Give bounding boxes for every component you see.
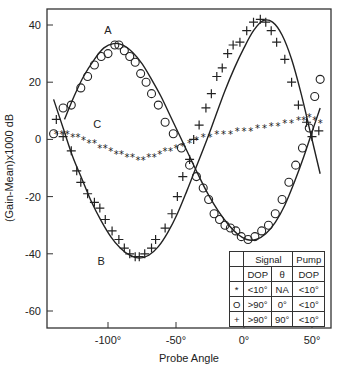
legend-row: O >90° 0° <10° [230,297,325,312]
star-marker-icon: * [289,118,294,129]
star-marker-icon: * [92,138,97,149]
circle-marker-icon [278,195,286,203]
star-marker-icon: * [318,118,323,129]
plus-marker-icon [83,189,92,198]
legend-signal-dop: >90° [244,297,272,312]
circle-marker-icon [148,90,156,98]
circle-marker-icon [59,104,67,112]
circle-marker-icon [90,61,98,69]
star-marker-icon: * [108,146,113,157]
star-marker-icon: * [269,121,274,132]
star-marker-icon: * [242,126,247,137]
legend-subheader-row: DOP θ DOP [230,267,325,282]
circle-marker-icon: O [230,297,244,312]
star-marker-icon: * [141,155,146,166]
star-marker-icon: * [301,115,306,126]
star-marker-icon: * [125,152,130,163]
y-tick-label: -60 [25,305,41,317]
circle-marker-icon [131,58,139,66]
legend-theta: NA [271,282,292,297]
legend-signal-dop: >90° [244,312,272,327]
y-tick-label: -20 [25,191,41,203]
star-marker-icon: * [119,149,124,160]
legend-row: * <10° NA <10° [230,282,325,297]
fit-curve-line [64,43,320,240]
circle-marker-icon [292,161,300,169]
star-marker-icon: * [174,143,179,154]
legend-subheader-pump-dop: DOP [293,267,325,282]
star-marker-icon: * [312,115,317,126]
star-marker-icon: * [135,155,140,166]
plus-marker-icon [218,63,227,72]
star-marker-icon: * [248,126,253,137]
star-marker-icon: * [282,118,287,129]
plus-marker-icon [272,38,281,47]
x-axis-label: Probe Angle [159,352,219,364]
star-marker-icon: * [201,132,206,143]
circle-marker-icon [154,101,162,109]
star-marker-icon: * [76,132,81,143]
star-marker-icon: * [208,132,213,143]
star-marker-icon: * [65,129,70,140]
legend-header-pump: Pump [293,252,325,267]
circle-marker-icon [84,72,92,80]
star-marker-icon: * [187,138,192,149]
plus-marker-icon [207,89,216,98]
circle-marker-icon [271,210,279,218]
star-marker-icon: * [130,152,135,163]
star-marker-icon: * [146,152,151,163]
plus-marker-icon [280,55,289,64]
star-marker-icon: * [163,146,168,157]
star-marker-icon: * [152,152,157,163]
circle-marker-icon [311,93,319,101]
star-marker-icon: * [103,143,108,154]
plus-marker-icon [167,209,176,218]
plus-marker-icon [212,72,221,81]
star-marker-icon: * [86,138,91,149]
star-marker-icon: * [307,112,312,123]
y-tick-label: 20 [29,76,41,88]
star-marker-icon: * [214,129,219,140]
circle-marker-icon [285,178,293,186]
plus-marker-icon [120,244,129,253]
plus-marker-icon: + [230,312,244,327]
plus-marker-icon [90,198,99,207]
plus-marker-icon [173,192,182,201]
y-tick-label: -40 [25,248,41,260]
star-marker-icon: * [81,135,86,146]
star-marker-icon: * [97,143,102,154]
plus-marker-icon [294,101,303,110]
star-marker-icon: * [180,141,185,152]
plus-marker-icon [201,103,210,112]
x-tick-label: -50° [166,334,186,346]
y-tick-label: 0 [35,133,41,145]
star-marker-icon: * [228,129,233,140]
star-marker-icon: * [255,123,260,134]
star-marker-icon: * [157,149,162,160]
star-marker-icon: * [230,282,244,297]
star-marker-icon: * [54,129,59,140]
plus-marker-icon [195,121,204,130]
legend-signal-dop: <10° [244,282,272,297]
circle-marker-icon [137,70,145,78]
circle-marker-icon [264,221,272,229]
star-marker-icon: * [235,126,240,137]
star-marker-icon: * [168,146,173,157]
plus-marker-icon [67,146,76,155]
legend-theta: 0° [271,297,292,312]
circle-marker-icon [161,118,169,126]
data-points: ****************************************… [50,15,325,261]
legend-header-signal: Signal [244,252,293,267]
legend-subheader-signal-dop: DOP [244,267,272,282]
curve-label: A [104,24,112,36]
legend-table: Signal Pump DOP θ DOP * <10° NA <10° O >… [229,251,325,327]
legend-corner [230,252,244,267]
plus-marker-icon [178,172,187,181]
star-marker-icon: * [276,121,281,132]
y-tick-label: 40 [29,19,41,31]
circle-marker-icon [104,50,112,58]
x-tick-label: -100° [95,334,121,346]
circle-marker-icon [316,75,324,83]
circle-marker-icon [258,227,266,235]
legend-subheader-blank [230,267,244,282]
